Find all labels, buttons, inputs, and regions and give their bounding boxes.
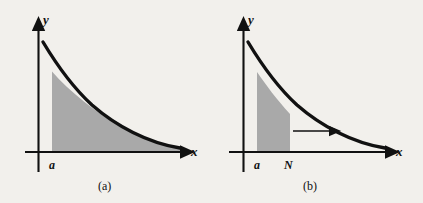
panel-caption-a: (a) (98, 180, 111, 192)
panel-b-plot (211, 0, 423, 203)
shaded-area-b (257, 72, 290, 152)
panel-a-plot (0, 0, 212, 203)
panel-a: y x a (a) (0, 0, 212, 203)
tick-label-a: a (49, 159, 55, 171)
figure-container: y x a (a) y (0, 0, 423, 203)
tick-label-n: N (284, 159, 293, 171)
tick-label-a: a (254, 159, 260, 171)
panel-b: y x a N (b) (211, 0, 423, 203)
y-axis-label: y (43, 13, 49, 26)
y-axis-label: y (248, 13, 254, 26)
x-axis-label: x (396, 145, 403, 158)
panel-caption-b: (b) (303, 180, 317, 192)
x-axis-label: x (191, 145, 198, 158)
